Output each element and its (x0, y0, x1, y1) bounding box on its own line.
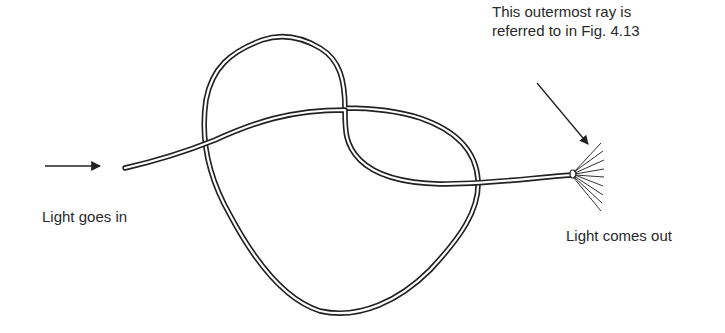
input-label: Light goes in (42, 207, 127, 226)
annotation-note: This outermost ray is referred to in Fig… (492, 2, 640, 40)
pointer-arrow-icon (537, 83, 588, 144)
annotation-line-2: referred to in Fig. 4.13 (492, 21, 640, 40)
optical-fiber (125, 37, 572, 313)
output-label: Light comes out (566, 226, 672, 245)
fiber-diagram (0, 0, 725, 333)
annotation-line-1: This outermost ray is (492, 2, 640, 21)
output-rays (573, 143, 604, 211)
